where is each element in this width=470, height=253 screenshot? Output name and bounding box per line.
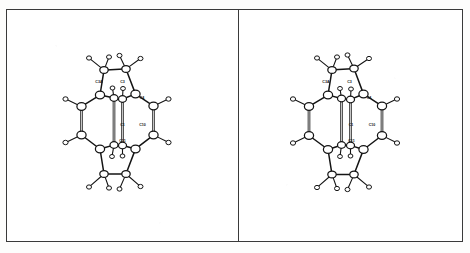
hydrogen-atom-15 xyxy=(138,184,143,188)
left-molecule-drawing: C3AC3C4C1C10C11 xyxy=(6,9,238,242)
hydrogen-atom-1 xyxy=(335,55,340,59)
bond-C9-C3 xyxy=(334,69,351,70)
carbon-atom-C15 xyxy=(119,142,127,149)
hydrogen-atom-5 xyxy=(166,97,171,101)
atom-label-C10: C10 xyxy=(369,123,376,127)
hydrogen-atom-6 xyxy=(110,86,115,90)
atom-label-C4: C4 xyxy=(367,96,372,100)
carbon-atom-C8 xyxy=(100,171,108,178)
carbon-atom-C7 xyxy=(95,145,104,153)
bond-C6-C7 xyxy=(311,137,326,148)
right-molecule-drawing: C3AC3C4C1C10C11 xyxy=(239,9,463,242)
carbon-atom-C10 xyxy=(149,102,158,110)
atom-label-C11: C11 xyxy=(119,139,126,143)
bond-C6-C7 xyxy=(84,137,98,148)
carbon-atom-C6 xyxy=(304,132,313,140)
hydrogen-atom-6 xyxy=(338,86,343,90)
carbon-atom-C14 xyxy=(338,142,346,149)
hydrogen-atom-12 xyxy=(87,185,92,189)
hydrogen-atom-9 xyxy=(166,140,171,144)
carbon-atom-C13 xyxy=(119,96,127,103)
bond-group-left xyxy=(67,57,167,188)
hydrogen-atom-10 xyxy=(338,154,343,158)
bond-C7-C8 xyxy=(328,152,331,172)
hydrogen-atom-3 xyxy=(367,56,372,60)
bond-hydrogen-12 xyxy=(318,176,330,187)
carbon-atom-C7 xyxy=(323,146,332,154)
carbon-atom-C3 xyxy=(122,66,130,73)
carbon-atom-C3 xyxy=(350,65,358,72)
hydrogen-atom-14 xyxy=(345,187,350,191)
carbon-atom-C13 xyxy=(347,96,355,103)
hydrogen-atom-7 xyxy=(349,87,354,91)
bond-hydrogen-0 xyxy=(90,59,102,69)
hydrogen-atom-13 xyxy=(335,186,340,190)
atom-label-C3: C3 xyxy=(120,80,125,84)
hydrogen-atom-2 xyxy=(345,53,350,57)
bond-C10A-C11 xyxy=(137,137,151,148)
hydrogen-atom-4 xyxy=(63,97,68,101)
hydrogen-atom-0 xyxy=(87,56,92,60)
hydrogen-atom-8 xyxy=(63,140,68,144)
bond-hydrogen-15 xyxy=(356,176,368,186)
carbon-atom-C10A xyxy=(377,132,386,140)
bond-hydrogen-14 xyxy=(348,177,353,189)
carbon-atom-C15 xyxy=(347,142,355,149)
bond-C3-C4 xyxy=(127,71,135,91)
atom-label-C1: C1 xyxy=(120,123,125,127)
hydrogen-atom-8 xyxy=(290,141,295,145)
bond-hydrogen-14 xyxy=(120,176,125,188)
hydrogen-atom-14 xyxy=(117,187,122,191)
bond-C9-C3 xyxy=(106,69,123,70)
right-molecule-panel: C3AC3C4C1C10C11 xyxy=(239,9,463,242)
atom-label-C3A: C3A xyxy=(95,80,103,84)
bond-C10A-C11 xyxy=(366,137,380,148)
carbon-atom-C3A xyxy=(323,91,332,99)
carbon-atom-C11 xyxy=(131,145,140,153)
carbon-atom-C10 xyxy=(377,102,386,110)
bond-C7-C8 xyxy=(100,151,103,171)
hydrogen-atom-4 xyxy=(290,97,295,101)
carbon-atom-C6 xyxy=(77,131,86,139)
hydrogen-atom-11 xyxy=(348,154,353,158)
hydrogen-atom-9 xyxy=(394,141,399,145)
hydrogen-atom-15 xyxy=(367,185,372,189)
carbon-atom-C8 xyxy=(328,171,336,178)
atom-label-C11: C11 xyxy=(348,139,355,143)
carbon-atom-C16 xyxy=(350,171,358,178)
hydrogen-atom-12 xyxy=(315,185,320,189)
bond-C11-C16 xyxy=(355,152,363,172)
bond-hydrogen-15 xyxy=(128,176,140,186)
carbon-atom-C5 xyxy=(77,103,86,111)
carbon-atom-C16 xyxy=(122,171,130,178)
atom-label-C10: C10 xyxy=(139,123,146,127)
atom-label-C4: C4 xyxy=(140,96,145,100)
carbon-atom-C9 xyxy=(328,67,336,74)
carbon-atom-C11 xyxy=(359,146,368,154)
carbon-atom-C12 xyxy=(110,95,118,102)
carbon-atom-C10A xyxy=(149,131,158,139)
bond-group-right xyxy=(294,56,395,188)
hydrogen-atom-1 xyxy=(107,55,112,59)
atom-group-left xyxy=(63,53,171,191)
left-molecule-panel: C3AC3C4C1C10C11 xyxy=(6,9,238,242)
carbon-atom-C9 xyxy=(100,67,108,74)
bond-hydrogen-12 xyxy=(90,176,102,187)
carbon-atom-C5 xyxy=(304,103,313,111)
bond-C3A-C5 xyxy=(84,96,98,105)
carbon-atom-C12 xyxy=(338,95,346,102)
atom-label-C3A: C3A xyxy=(322,80,330,84)
hydrogen-atom-0 xyxy=(315,56,320,60)
hydrogen-atom-7 xyxy=(121,86,126,90)
carbon-atom-C3A xyxy=(95,91,104,99)
hydrogen-atom-10 xyxy=(110,154,115,158)
bond-hydrogen-0 xyxy=(318,59,330,69)
hydrogen-atom-2 xyxy=(117,53,122,57)
atom-label-C1: C1 xyxy=(349,123,354,127)
hydrogen-atom-3 xyxy=(138,56,143,60)
hydrogen-atom-5 xyxy=(394,97,399,101)
hydrogen-atom-11 xyxy=(120,154,125,158)
bond-C3-C4 xyxy=(355,71,363,92)
bond-C3A-C5 xyxy=(311,96,326,105)
bond-C11-C16 xyxy=(127,151,135,171)
